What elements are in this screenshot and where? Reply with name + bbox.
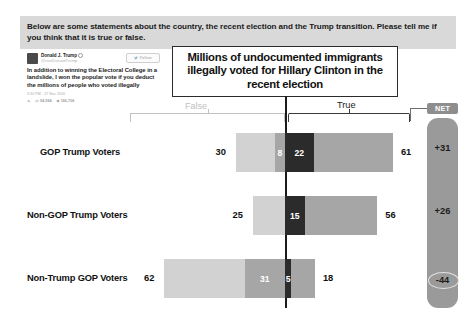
bar-segment-value: 22 (295, 148, 305, 158)
tweet-stats: 54,994 160,706 (27, 99, 160, 103)
tweet-header: Donald J. Trump @realDonaldTrump Follow (27, 53, 160, 64)
statement-text: Millions of undocumented immigrants ille… (177, 51, 393, 91)
heart-icon (56, 99, 60, 103)
false-bracket-tick (208, 109, 209, 113)
question-banner: Below are some statements about the coun… (20, 16, 456, 49)
false-bracket (130, 113, 285, 122)
left-value-label: 25 (233, 210, 243, 220)
retweet-icon (35, 99, 39, 103)
question-banner-text: Below are some statements about the coun… (27, 21, 449, 43)
left-value-label: 30 (216, 147, 226, 157)
net-value: +26 (427, 206, 458, 216)
right-value-label: 56 (385, 210, 395, 220)
statement-box: Millions of undocumented immigrants ille… (172, 46, 398, 97)
net-highlight-circle (428, 272, 459, 289)
tweet-body-text: In addition to winning the Electoral Col… (27, 67, 160, 89)
tweet-timestamp: 3:30 PM - 27 Nov 2016 (27, 92, 160, 96)
true-bracket (288, 113, 410, 122)
retweet-count: 54,994 (40, 99, 52, 103)
follow-button[interactable]: Follow (126, 53, 160, 63)
tweet-identity: Donald J. Trump @realDonaldTrump (41, 53, 126, 63)
twitter-bird-icon (134, 56, 138, 60)
like-stat[interactable]: 160,706 (56, 99, 75, 103)
bar-segment (253, 196, 286, 235)
bar-segment-value: 31 (260, 274, 270, 284)
avatar (27, 53, 38, 64)
tweet-card: Donald J. Trump @realDonaldTrump Follow … (27, 53, 160, 103)
row-label: Non-Trump GOP Voters (27, 273, 127, 283)
table-row: 15 (253, 196, 378, 235)
bar-segment-value: 15 (290, 211, 300, 221)
left-value-label: 62 (144, 273, 154, 283)
follow-button-label: Follow (140, 56, 152, 60)
net-tag: NET (427, 103, 458, 114)
poll-chart-slide: Below are some statements about the coun… (0, 0, 473, 320)
bar-segment-value: 5 (286, 274, 291, 284)
retweet-stat[interactable]: 54,994 (35, 99, 52, 103)
right-value-label: 18 (323, 273, 333, 283)
bar-segment (164, 259, 245, 298)
bar-segment (305, 196, 378, 235)
verified-badge-icon (78, 53, 83, 58)
tweet-handle: @realDonaldTrump (41, 58, 126, 63)
row-label: GOP Trump Voters (40, 147, 120, 157)
bar-segment: 31 (245, 259, 285, 298)
bar-segment (291, 259, 314, 298)
bar-segment: 22 (285, 133, 314, 172)
right-value-label: 61 (401, 147, 411, 157)
bar-segment: 8 (275, 133, 285, 172)
table-row: 315 (164, 259, 315, 298)
true-bracket-tick (349, 109, 350, 113)
bar-segment-value: 8 (277, 148, 282, 158)
table-row: 822 (236, 133, 393, 172)
net-tag-label: NET (435, 104, 450, 113)
reply-icon (27, 99, 31, 103)
true-axis-label: True (337, 100, 356, 110)
false-axis-label: False (185, 101, 207, 111)
bar-segment (236, 133, 275, 172)
net-value: +31 (427, 143, 458, 153)
like-count: 160,706 (61, 99, 75, 103)
row-label: Non-GOP Trump Voters (27, 210, 127, 220)
reply-stat[interactable] (27, 99, 31, 103)
bar-segment: 15 (285, 196, 305, 235)
bar-segment (314, 133, 393, 172)
